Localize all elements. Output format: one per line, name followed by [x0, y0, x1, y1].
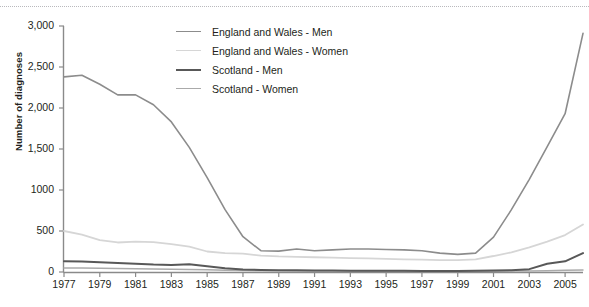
x-axis-tick-label: 1983	[151, 278, 191, 290]
x-axis-tick-label: 1995	[366, 278, 406, 290]
legend-item-label: Scotland - Women	[212, 83, 298, 95]
chart-legend: England and Wales - MenEngland and Wales…	[176, 22, 416, 98]
chart-figure: Number of diagnoses 050010001,5002,0002,…	[0, 0, 589, 307]
x-axis-tick-label: 1979	[80, 278, 120, 290]
legend-item-label: England and Wales - Men	[212, 26, 332, 38]
x-axis-tick-label: 1985	[187, 278, 227, 290]
legend-item-label: England and Wales - Women	[212, 45, 348, 57]
x-axis-tick-label: 1993	[330, 278, 370, 290]
x-axis-tick-label: 2003	[509, 278, 549, 290]
x-axis-tick-label: 1981	[116, 278, 156, 290]
legend-item[interactable]: England and Wales - Men	[176, 22, 416, 41]
legend-item[interactable]: England and Wales - Women	[176, 41, 416, 60]
x-axis-tick-label: 1987	[223, 278, 263, 290]
x-axis-tick-label: 1977	[44, 278, 84, 290]
x-axis-tick-label: 1997	[402, 278, 442, 290]
legend-swatch-icon	[176, 88, 201, 89]
x-axis-tick-labels: 1977197919811983198519871989199119931995…	[0, 278, 589, 298]
legend-swatch-icon	[176, 31, 201, 32]
legend-item-label: Scotland - Men	[212, 64, 283, 76]
legend-swatch-icon	[176, 50, 201, 51]
x-axis-tick-label: 2005	[545, 278, 585, 290]
series-line	[64, 224, 583, 260]
x-axis-tick-label: 1989	[259, 278, 299, 290]
x-axis-tick-label: 1991	[295, 278, 335, 290]
legend-item[interactable]: Scotland - Women	[176, 79, 416, 98]
x-axis-tick-label: 2001	[474, 278, 514, 290]
x-axis-tick-label: 1999	[438, 278, 478, 290]
legend-swatch-icon	[176, 69, 201, 71]
legend-item[interactable]: Scotland - Men	[176, 60, 416, 79]
